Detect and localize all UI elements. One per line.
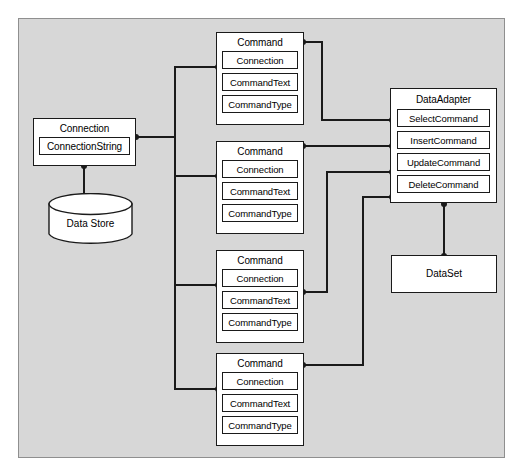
command-node-4-member-connection[interactable]: Connection [222,372,298,390]
command-node-1-member-commandtype[interactable]: CommandType [222,95,298,113]
command-node-4-member-commandtype[interactable]: CommandType [222,416,298,434]
command-node-3-title: Command [217,251,303,269]
data-adapter-node-title: DataAdapter [391,89,496,109]
command-node-2-title: Command [217,142,303,160]
command-node-3-member-commandtext[interactable]: CommandText [222,291,298,309]
data-set-node-title: DataSet [392,256,496,292]
data-adapter-member-deletecommand[interactable]: DeleteCommand [397,175,490,193]
command-node-4-title: Command [217,354,303,372]
command-node-2-member-commandtype[interactable]: CommandType [222,204,298,222]
command-node-2-member-connection[interactable]: Connection [222,160,298,178]
command-node-2[interactable]: Command Connection CommandText CommandTy… [216,141,304,234]
command-node-1-member-commandtext[interactable]: CommandText [222,73,298,91]
command-node-3-member-connection[interactable]: Connection [222,269,298,287]
data-adapter-node[interactable]: DataAdapter SelectCommand InsertCommand … [390,88,497,203]
command-node-3[interactable]: Command Connection CommandText CommandTy… [216,250,304,343]
command-node-2-member-commandtext[interactable]: CommandText [222,182,298,200]
connection-member-connectionstring[interactable]: ConnectionString [39,137,130,155]
data-adapter-member-selectcommand[interactable]: SelectCommand [397,109,490,127]
data-set-node[interactable]: DataSet [391,255,497,293]
data-adapter-member-updatecommand[interactable]: UpdateCommand [397,153,490,171]
connection-node[interactable]: Connection ConnectionString [33,118,136,166]
command-node-4-member-commandtext[interactable]: CommandText [222,394,298,412]
data-store-node[interactable]: Data Store [48,193,133,245]
command-node-3-member-commandtype[interactable]: CommandType [222,313,298,331]
data-adapter-member-insertcommand[interactable]: InsertCommand [397,131,490,149]
connection-node-title: Connection [34,119,135,137]
diagram-canvas: Connection ConnectionString Data Store C… [0,0,520,475]
command-node-4[interactable]: Command Connection CommandText CommandTy… [216,353,304,446]
command-node-1[interactable]: Command Connection CommandText CommandTy… [216,32,304,125]
data-store-label: Data Store [48,193,133,245]
command-node-1-title: Command [217,33,303,51]
command-node-1-member-connection[interactable]: Connection [222,51,298,69]
